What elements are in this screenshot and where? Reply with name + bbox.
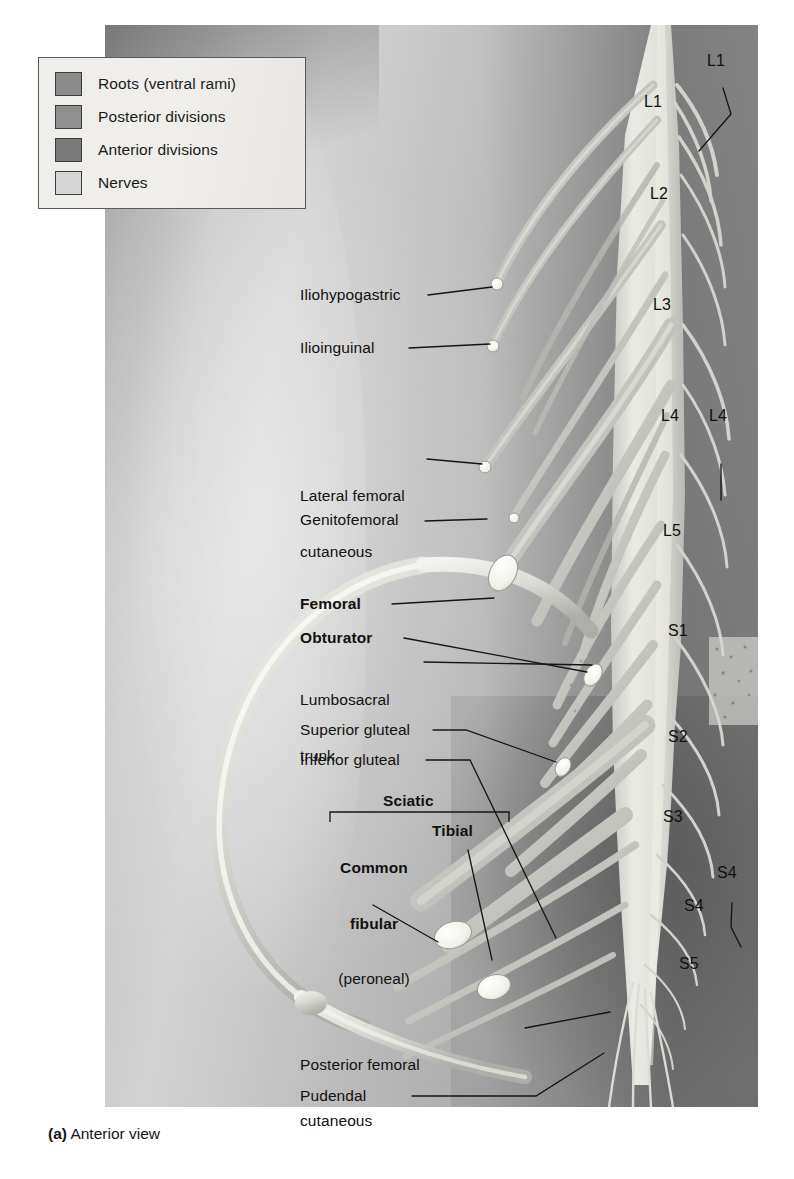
label-s2: S2 <box>668 728 688 746</box>
label-common-fibular: Common fibular (peroneal) <box>322 822 426 1026</box>
label-inferior-gluteal: Inferior gluteal <box>300 751 400 770</box>
figure-caption: (a) Anterior view <box>48 1125 160 1143</box>
figure-page: Roots (ventral rami) Posterior divisions… <box>0 0 794 1179</box>
label-l3: L3 <box>653 296 671 314</box>
label-s4-outer: S4 <box>717 864 737 882</box>
label-l1-outer: L1 <box>707 52 725 70</box>
label-s5: S5 <box>679 955 699 973</box>
label-s3: S3 <box>663 808 683 826</box>
caption-text: Anterior view <box>67 1125 160 1142</box>
label-superior-gluteal: Superior gluteal <box>300 721 410 740</box>
legend-row-roots: Roots (ventral rami) <box>55 67 295 100</box>
legend-row-nerves: Nerves <box>55 166 295 199</box>
label-pudendal: Pudendal <box>300 1087 366 1106</box>
label-sciatic: Sciatic <box>383 792 434 811</box>
label-l4-inner: L4 <box>661 407 679 425</box>
cut-end-lateral-femoral-cutaneous <box>479 461 491 473</box>
legend-label-anterior-divisions: Anterior divisions <box>98 141 218 159</box>
caption-letter: (a) <box>48 1125 67 1142</box>
label-l4-outer: L4 <box>709 407 727 425</box>
label-s4-inner: S4 <box>684 897 704 915</box>
label-femoral: Femoral <box>300 595 361 614</box>
cut-end-iliohypogastric <box>491 278 503 290</box>
label-lateral-femoral-cutaneous-line2: cutaneous <box>300 543 405 562</box>
label-iliohypogastric: Iliohypogastric <box>300 286 401 305</box>
legend-label-posterior-divisions: Posterior divisions <box>98 108 226 126</box>
legend-label-roots: Roots (ventral rami) <box>98 75 236 93</box>
label-l1-inner: L1 <box>644 93 662 111</box>
legend-row-anterior-divisions: Anterior divisions <box>55 133 295 166</box>
label-s1: S1 <box>668 622 688 640</box>
label-common-fibular-line2: fibular <box>322 915 426 934</box>
legend-box: Roots (ventral rami) Posterior divisions… <box>38 57 306 209</box>
cut-end-genitofemoral <box>509 513 519 523</box>
label-l5: L5 <box>663 522 681 540</box>
label-obturator: Obturator <box>300 629 372 648</box>
label-tibial: Tibial <box>432 822 473 841</box>
label-common-fibular-line1: Common <box>322 859 426 878</box>
legend-label-nerves: Nerves <box>98 174 148 192</box>
label-common-fibular-line3: (peroneal) <box>322 970 426 989</box>
cancellous-bone-patch <box>709 637 758 725</box>
swatch-posterior-divisions <box>55 105 82 129</box>
cut-end-tibial <box>474 970 514 1003</box>
swatch-roots <box>55 72 82 96</box>
label-lateral-femoral-cutaneous-line1: Lateral femoral <box>300 487 405 506</box>
label-genitofemoral: Genitofemoral <box>300 511 399 530</box>
label-ilioinguinal: Ilioinguinal <box>300 339 374 358</box>
legend-row-posterior-divisions: Posterior divisions <box>55 100 295 133</box>
label-l2: L2 <box>650 185 668 203</box>
swatch-anterior-divisions <box>55 138 82 162</box>
label-posterior-femoral-cutaneous-line1: Posterior femoral <box>300 1056 420 1075</box>
label-posterior-femoral-cutaneous-line2: cutaneous <box>300 1112 420 1131</box>
cut-end-ilioinguinal <box>487 340 499 352</box>
label-lumbosacral-trunk-line1: Lumbosacral <box>300 691 390 710</box>
swatch-nerves <box>55 171 82 195</box>
